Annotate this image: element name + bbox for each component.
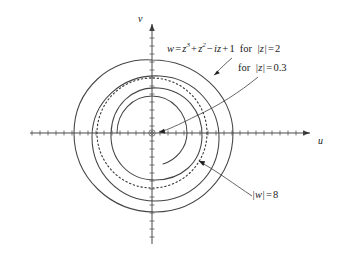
leader-modulus-8 bbox=[199, 161, 253, 196]
modulus-8-value: 8 bbox=[273, 189, 278, 200]
small-circle-label: for |z|=0.3 bbox=[238, 63, 287, 74]
image-curve-inner-loop bbox=[111, 88, 202, 180]
formula-minus: − bbox=[206, 43, 214, 54]
leader-formula-arrowhead bbox=[214, 70, 220, 75]
leader-formula bbox=[214, 58, 233, 76]
formula-label: w=z3+z2−iz+1 for |z|=2 bbox=[167, 42, 280, 54]
modulus-w: |w| bbox=[252, 189, 265, 200]
formula-radius-value: 2 bbox=[275, 43, 280, 54]
v-axis-label: v bbox=[138, 14, 142, 24]
small-modulus-z: |z| bbox=[255, 62, 265, 73]
formula-constant-one: 1 bbox=[229, 43, 234, 54]
u-axis-label: u bbox=[318, 136, 323, 146]
leader-small-circle bbox=[159, 77, 259, 134]
figure-canvas bbox=[0, 0, 340, 257]
formula-equals-2: = bbox=[267, 43, 275, 54]
modulus-8-equals: = bbox=[265, 189, 273, 200]
formula-plus-1: + bbox=[190, 43, 198, 54]
small-for-word: for bbox=[238, 62, 250, 73]
leader-modulus-8-arrowhead bbox=[199, 161, 206, 166]
formula-modulus-z: |z| bbox=[257, 43, 267, 54]
modulus-8-label: |w|=8 bbox=[252, 190, 278, 201]
formula-for-word: for bbox=[240, 43, 252, 54]
formula-w: w bbox=[167, 43, 174, 54]
complex-plane-figure bbox=[0, 0, 340, 257]
small-radius-value: 0.3 bbox=[273, 62, 286, 73]
